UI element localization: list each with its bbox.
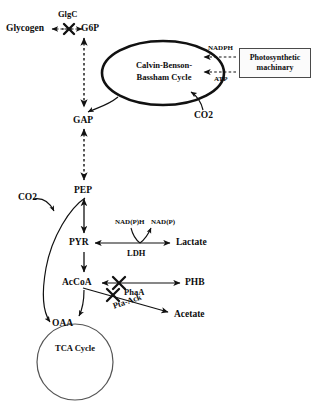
- label-lactate: Lactate: [176, 238, 207, 248]
- photosynthetic-machinery-box: Photosynthetic machinary: [239, 48, 311, 78]
- label-nadph-ldh-in: NAD(P)H: [115, 219, 145, 226]
- label-phb: PHB: [185, 278, 205, 288]
- label-calvin-cycle-line2: Bassham Cycle: [119, 72, 209, 83]
- accoa-to-tca-arrow: [79, 290, 84, 316]
- label-nadph: NADPH: [208, 45, 233, 52]
- label-co2-pep: CO2: [18, 193, 37, 203]
- label-photosynthetic-line2: machinary: [250, 63, 301, 73]
- tca-cycle-circle: [37, 324, 113, 400]
- label-tca-cycle: TCA Cycle: [45, 343, 105, 354]
- calvin-to-gap-arrow: [88, 97, 118, 112]
- label-glgc: GlgC: [58, 10, 77, 19]
- label-gap: GAP: [73, 116, 93, 126]
- label-ldh: LDH: [127, 249, 145, 258]
- nadp-out-curve: [140, 228, 151, 243]
- pep-to-oaa-arrow: [43, 198, 85, 322]
- label-photosynthetic-line1: Photosynthetic: [250, 53, 301, 63]
- label-accoa: AcCoA: [62, 278, 92, 288]
- label-pyr: PYR: [69, 238, 89, 248]
- label-g6p: G6P: [81, 24, 99, 34]
- label-glycogen: Glycogen: [6, 24, 44, 34]
- label-pep: PEP: [74, 186, 92, 196]
- nadph-in-curve: [131, 228, 140, 243]
- label-acetate: Acetate: [174, 310, 205, 320]
- label-nadp-ldh-out: NAD(P): [151, 219, 175, 226]
- label-atp: ATP: [214, 76, 227, 83]
- label-co2-calvin: CO2: [194, 111, 213, 121]
- label-oaa: OAA: [52, 319, 73, 329]
- label-calvin-cycle-line1: Calvin-Benson-: [119, 60, 209, 71]
- pathway-diagram: Glycogen GlgC G6P Calvin-Benson- Bassham…: [0, 0, 317, 403]
